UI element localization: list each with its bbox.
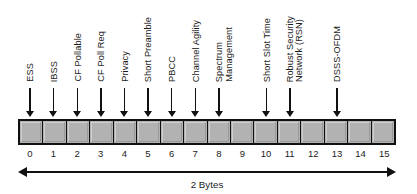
field-width-measure <box>18 166 396 178</box>
bit-label-5: Short Preamble <box>144 17 153 82</box>
bit-label-line: Channel Agility <box>192 20 201 82</box>
bit-label-line: Network (RSN) <box>295 19 304 82</box>
bit-label-0: ESS <box>26 63 35 82</box>
bit-number-3: 3 <box>89 148 113 160</box>
arrow-down-icon <box>120 111 128 117</box>
bit-label-6: PBCC <box>168 56 177 82</box>
bit-number-13: 13 <box>325 148 349 160</box>
bit-label-line: CF Pollable <box>74 33 83 82</box>
bit-cell-7 <box>184 121 207 143</box>
bit-cell-8 <box>208 121 231 143</box>
arrow-shaft <box>195 88 196 112</box>
arrow-down-icon <box>144 111 152 117</box>
bit-pointer-arrow-8 <box>214 88 223 117</box>
arrow-shaft <box>336 88 337 112</box>
arrow-down-icon <box>97 111 105 117</box>
bit-cell-1 <box>43 121 66 143</box>
arrow-down-icon <box>191 111 199 117</box>
bit-label-11: Robust SecurityNetwork (RSN) <box>286 16 306 82</box>
arrow-shaft <box>53 88 54 112</box>
arrow-shaft <box>77 88 78 112</box>
bit-cell-3 <box>90 121 113 143</box>
bit-label-4: Privacy <box>121 51 130 82</box>
arrow-shaft <box>266 88 267 112</box>
arrow-shaft <box>218 88 219 112</box>
bit-pointer-arrow-1 <box>49 88 58 117</box>
arrow-down-icon <box>73 111 81 117</box>
bit-pointer-arrow-10 <box>262 88 271 117</box>
bit-number-row: 0123456789101112131415 <box>18 148 396 160</box>
bit-number-11: 11 <box>278 148 302 160</box>
bit-pointer-arrow-13 <box>332 88 341 117</box>
bit-label-3: CF Poll Req <box>97 31 106 82</box>
arrow-down-icon <box>49 111 57 117</box>
bit-cell-11 <box>278 121 301 143</box>
bit-number-12: 12 <box>302 148 326 160</box>
bit-label-line: IBSS <box>50 61 59 82</box>
bit-pointer-arrow-6 <box>167 88 176 117</box>
arrow-down-icon <box>168 111 176 117</box>
bit-cell-6 <box>161 121 184 143</box>
arrow-down-icon <box>26 111 34 117</box>
field-width-label: 2 Bytes <box>18 179 396 191</box>
arrow-down-icon <box>286 111 294 117</box>
bit-number-10: 10 <box>254 148 278 160</box>
arrow-shaft <box>29 88 30 112</box>
arrow-down-icon <box>333 111 341 117</box>
bit-label-13: DSSS-OFDM <box>333 26 342 82</box>
capability-information-field-diagram: ESSIBSSCF PollableCF Poll ReqPrivacyShor… <box>0 0 417 194</box>
bit-pointer-arrow-0 <box>25 88 34 117</box>
arrow-shaft <box>171 88 172 112</box>
bit-pointer-arrow-5 <box>143 88 152 117</box>
arrow-shaft <box>289 88 290 112</box>
bit-pointer-arrow-7 <box>191 88 200 117</box>
bit-label-1: IBSS <box>50 61 59 82</box>
bit-number-0: 0 <box>18 148 42 160</box>
bit-label-line: PBCC <box>168 56 177 82</box>
bit-label-line: Short Slot Time <box>263 18 272 82</box>
bit-label-line: Management <box>225 27 234 82</box>
bit-cell-0 <box>20 121 43 143</box>
bit-label-line: ESS <box>26 63 35 82</box>
bit-label-line: CF Poll Req <box>97 31 106 82</box>
bit-label-7: Channel Agility <box>192 20 201 82</box>
bit-label-8: SpectrumManagement <box>215 27 235 82</box>
bit-number-8: 8 <box>207 148 231 160</box>
arrow-shaft <box>100 88 101 112</box>
bit-pointer-arrow-3 <box>96 88 105 117</box>
bit-pointer-arrow-11 <box>285 88 294 117</box>
measure-arrowhead-right-icon <box>387 167 396 177</box>
bit-number-7: 7 <box>183 148 207 160</box>
bit-number-1: 1 <box>42 148 66 160</box>
bit-label-line: Spectrum <box>215 42 224 82</box>
bit-label-line: DSSS-OFDM <box>333 26 342 82</box>
bit-number-5: 5 <box>136 148 160 160</box>
bit-cell-4 <box>114 121 137 143</box>
bit-field-bar <box>18 119 396 145</box>
bit-cell-9 <box>231 121 254 143</box>
bit-number-14: 14 <box>349 148 373 160</box>
arrow-down-icon <box>215 111 223 117</box>
bit-number-4: 4 <box>113 148 137 160</box>
bit-label-10: Short Slot Time <box>263 18 272 82</box>
bit-pointer-arrow-4 <box>120 88 129 117</box>
bit-cell-2 <box>67 121 90 143</box>
bit-cell-14 <box>348 121 371 143</box>
bit-label-line: Privacy <box>121 51 130 82</box>
bit-cell-15 <box>372 121 394 143</box>
arrow-shaft <box>147 88 148 112</box>
bit-number-6: 6 <box>160 148 184 160</box>
bit-cell-10 <box>254 121 277 143</box>
measure-line <box>25 171 389 173</box>
bit-number-9: 9 <box>231 148 255 160</box>
bit-label-line: Short Preamble <box>144 17 153 82</box>
arrow-down-icon <box>262 111 270 117</box>
bit-number-15: 15 <box>372 148 396 160</box>
bit-pointer-arrow-2 <box>73 88 82 117</box>
bit-cell-5 <box>137 121 160 143</box>
arrow-shaft <box>124 88 125 112</box>
bit-cell-13 <box>325 121 348 143</box>
bit-number-2: 2 <box>65 148 89 160</box>
bit-label-2: CF Pollable <box>74 33 83 82</box>
bit-cell-12 <box>301 121 324 143</box>
